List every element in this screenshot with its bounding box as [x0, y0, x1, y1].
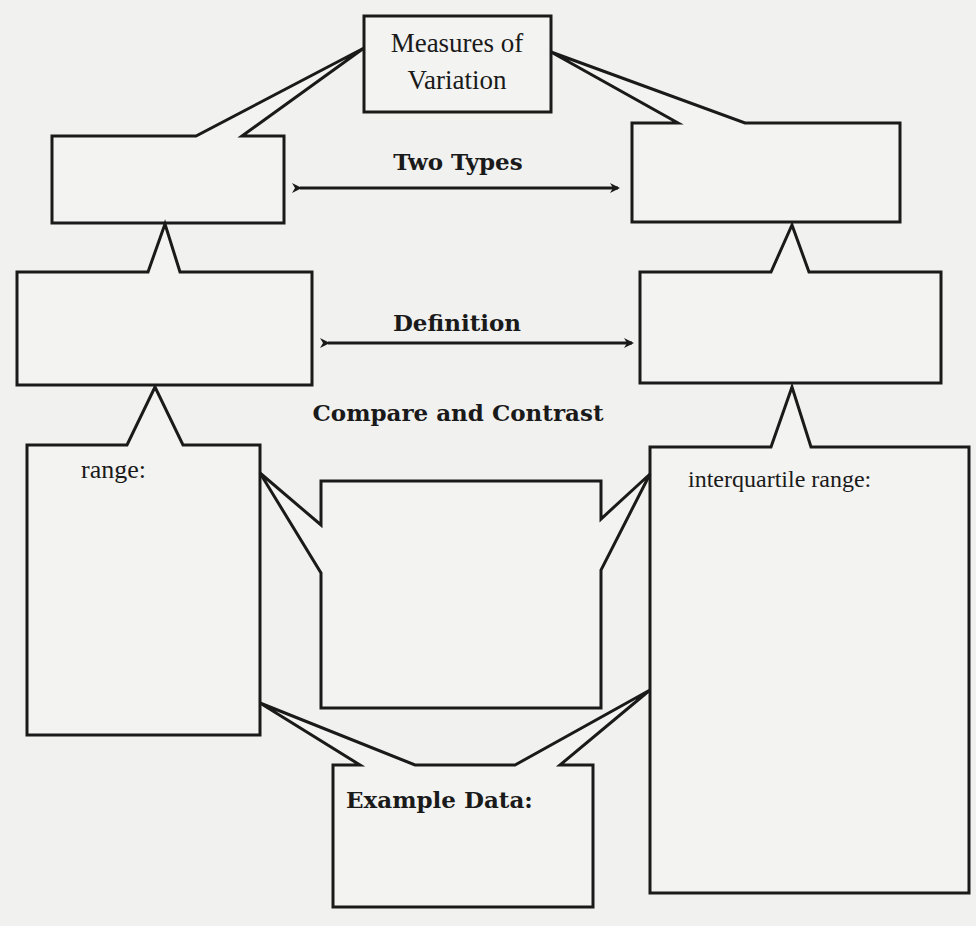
compare-answer[interactable] [325, 485, 597, 705]
iqr-box[interactable] [650, 387, 969, 893]
two-types-label: Two Types [393, 148, 522, 175]
root-label-line1: Measures of [391, 25, 524, 62]
type-left-answer[interactable] [56, 140, 280, 220]
compare-contrast-label: Compare and Contrast [312, 399, 603, 426]
definition-label: Definition [393, 309, 521, 336]
example-data-label: Example Data: [346, 786, 533, 813]
range-label: range: [81, 455, 146, 485]
range-box[interactable] [27, 387, 260, 735]
definition-left-answer[interactable] [21, 276, 309, 382]
root-label: Measures of Variation [391, 25, 524, 99]
root-label-line2: Variation [391, 62, 524, 99]
type-right-answer[interactable] [636, 127, 896, 219]
definition-right-answer[interactable] [644, 276, 938, 380]
iqr-label: interquartile range: [688, 466, 871, 493]
